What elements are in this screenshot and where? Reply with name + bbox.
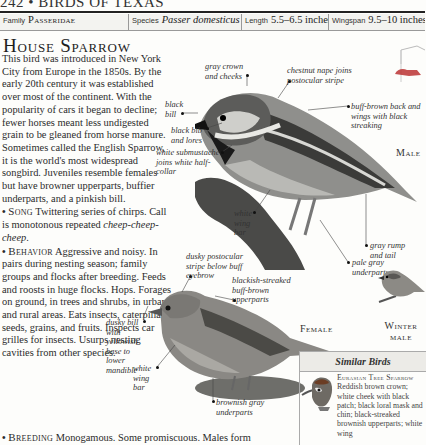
similar-bird-name: Eurasian Tree Sparrow: [337, 373, 425, 382]
similar-bird-entry: Eurasian Tree Sparrow Reddish brown crow…: [337, 373, 425, 438]
annotation-dot: [212, 400, 215, 403]
annotation-dot: [189, 275, 192, 278]
annotation-upperparts: blackish-streaked buff-brown upperparts: [232, 276, 298, 305]
annotation-dot: [143, 320, 146, 323]
similar-birds-heading: Similar Birds: [300, 352, 426, 372]
annotation-white-wing-bar-female: white wing bar: [133, 364, 157, 393]
winter-male-label: Winter male: [378, 320, 424, 342]
winter-male-illustration: [376, 268, 425, 310]
annotation-brownish-gray-underparts: brownish gray underparts: [216, 398, 266, 417]
annotation-dot: [233, 299, 236, 302]
eurasian-tree-sparrow-thumbnail: [300, 373, 336, 413]
similar-bird-description: Reddish brown crown; white cheek with bl…: [337, 382, 425, 438]
female-label: Female: [300, 323, 333, 334]
annotation-dot: [156, 366, 159, 369]
